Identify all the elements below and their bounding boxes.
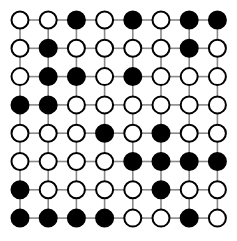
lattice-node-filled <box>181 40 198 57</box>
lattice-node-empty <box>40 153 57 170</box>
lattice-node-empty <box>12 153 29 170</box>
lattice-node-empty <box>68 181 85 198</box>
lattice-node-empty <box>181 96 198 113</box>
lattice-node-filled <box>209 12 226 29</box>
lattice-node-empty <box>153 210 170 227</box>
lattice-node-empty <box>124 210 141 227</box>
lattice-node-empty <box>40 12 57 29</box>
lattice-node-filled <box>40 68 57 85</box>
lattice-node-filled <box>153 125 170 142</box>
lattice-node-filled <box>124 68 141 85</box>
lattice-node-filled <box>12 181 29 198</box>
lattice-node-empty <box>96 68 113 85</box>
lattice-node-empty <box>68 40 85 57</box>
lattice-node-empty <box>153 68 170 85</box>
lattice-node-empty <box>12 40 29 57</box>
lattice-node-empty <box>68 96 85 113</box>
lattice-node-empty <box>209 40 226 57</box>
lattice-node-empty <box>12 125 29 142</box>
lattice-node-filled <box>12 96 29 113</box>
lattice-node-empty <box>96 153 113 170</box>
lattice-node-empty <box>181 181 198 198</box>
lattice-node-filled <box>181 153 198 170</box>
lattice-node-empty <box>96 40 113 57</box>
lattice-node-filled <box>96 210 113 227</box>
lattice-node-empty <box>68 153 85 170</box>
lattice-node-empty <box>181 68 198 85</box>
lattice-node-empty <box>40 125 57 142</box>
lattice-node-filled <box>40 210 57 227</box>
lattice-node-empty <box>209 210 226 227</box>
lattice-node-empty <box>209 181 226 198</box>
lattice-node-empty <box>153 96 170 113</box>
lattice-node-empty <box>96 181 113 198</box>
lattice-node-filled <box>96 125 113 142</box>
lattice-node-empty <box>12 68 29 85</box>
lattice-node-empty <box>40 181 57 198</box>
lattice-node-empty <box>124 40 141 57</box>
lattice-node-filled <box>124 12 141 29</box>
lattice-node-filled <box>12 210 29 227</box>
lattice-node-filled <box>181 12 198 29</box>
lattice-node-filled <box>68 68 85 85</box>
lattice-node-empty <box>181 125 198 142</box>
lattice-node-empty <box>12 12 29 29</box>
lattice-node-empty <box>96 12 113 29</box>
lattice-graph-canvas <box>0 0 237 241</box>
lattice-node-empty <box>68 125 85 142</box>
figure-background <box>0 0 237 241</box>
lattice-node-filled <box>209 153 226 170</box>
lattice-node-empty <box>209 96 226 113</box>
lattice-node-filled <box>124 153 141 170</box>
lattice-node-filled <box>153 153 170 170</box>
lattice-node-filled <box>40 40 57 57</box>
lattice-node-filled <box>40 96 57 113</box>
lattice-node-empty <box>124 96 141 113</box>
lattice-node-empty <box>124 181 141 198</box>
lattice-node-empty <box>153 40 170 57</box>
lattice-node-filled <box>68 12 85 29</box>
lattice-node-empty <box>209 68 226 85</box>
lattice-figure <box>0 0 237 241</box>
lattice-node-filled <box>68 210 85 227</box>
lattice-node-empty <box>96 96 113 113</box>
lattice-node-empty <box>209 125 226 142</box>
lattice-node-empty <box>153 12 170 29</box>
lattice-node-filled <box>153 181 170 198</box>
lattice-node-empty <box>124 125 141 142</box>
lattice-node-filled <box>181 210 198 227</box>
